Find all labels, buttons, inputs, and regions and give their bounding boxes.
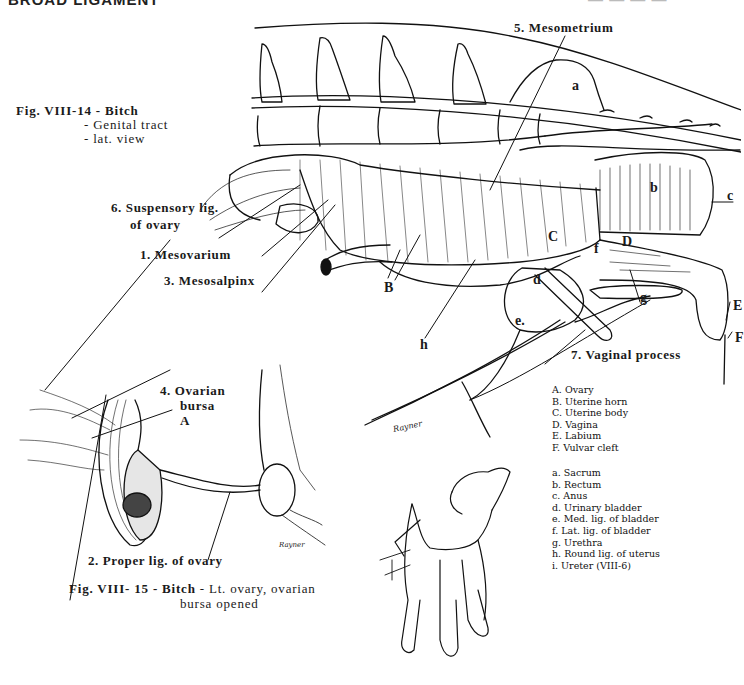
legend-item-g: g. Urethra [552, 537, 660, 549]
label-ovarian-bursa-1: 4. Ovarian [160, 383, 225, 399]
figure-14-subtitle-2: - lat. view [84, 131, 145, 146]
letter-d-bladder: d [533, 272, 541, 288]
legend-item-C: C. Uterine body [552, 407, 628, 419]
legend-item-h: h. Round lig. of uterus [552, 548, 660, 560]
leader-lines-fig14 [219, 36, 733, 364]
rectum-drawing [520, 146, 740, 235]
label-suspensory-lig-2: of ovary [130, 217, 181, 233]
figure-14-title: Fig. VIII-14 - Bitch [16, 103, 139, 118]
legend-lowercase-letters: a. Sacrum b. Rectum c. Anus d. Urinary b… [552, 467, 660, 571]
label-proper-lig-ovary: 2. Proper lig. of ovary [88, 553, 223, 569]
label-mesometrium: 5. Mesometrium [514, 20, 613, 36]
label-suspensory-lig-1: 6. Suspensory lig. [111, 200, 219, 216]
label-mesosalpinx: 3. Mesosalpinx [164, 273, 255, 289]
legend-item-E: E. Labium [552, 430, 628, 442]
legend-item-f: f. Lat. lig. of bladder [552, 525, 660, 537]
letter-h-round-lig: h [420, 337, 428, 353]
letter-f-lat-lig: f [594, 241, 599, 257]
letter-b-rectum: b [650, 180, 658, 196]
label-ovarian-bursa-2: bursa [180, 398, 215, 414]
legend-item-A: A. Ovary [552, 384, 628, 396]
legend-item-c: c. Anus [552, 490, 660, 502]
figure-15-description: - Lt. ovary, ovarian [196, 581, 316, 596]
legend-capital-letters: A. Ovary B. Uterine horn C. Uterine body… [552, 384, 628, 454]
letter-a-sacrum: a [572, 78, 579, 94]
legend-item-i: i. Ureter (VIII-6) [552, 560, 660, 572]
artist-signature-fig15: Rayner [279, 541, 305, 549]
figure-15-title: Fig. VIII- 15 - Bitch [69, 581, 196, 596]
legend-item-a: a. Sacrum [552, 467, 660, 479]
sacrum-vertebrae-drawing [252, 23, 741, 152]
genital-tract-drawing [200, 155, 728, 437]
letter-B-uterine-horn: B [384, 280, 393, 296]
legend-item-b: b. Rectum [552, 479, 660, 491]
cartoon-dog-drawing [380, 468, 510, 656]
label-mesovarium: 1. Mesovarium [140, 247, 231, 263]
letter-F-vulvar-cleft: F [735, 330, 744, 346]
label-A-ovary: A [180, 413, 190, 429]
leader-lines-fig15 [45, 240, 230, 600]
letter-E-labium: E [733, 298, 742, 314]
legend-item-d: d. Urinary bladder [552, 502, 660, 514]
figure-14-caption: Fig. VIII-14 - Bitch [16, 103, 139, 118]
letter-e-med-lig: e. [515, 313, 525, 329]
letter-D-vagina: D [622, 234, 632, 250]
label-vaginal-process: 7. Vaginal process [571, 347, 681, 363]
legend-item-e: e. Med. lig. of bladder [552, 513, 660, 525]
legend-item-B: B. Uterine horn [552, 396, 628, 408]
letter-c-anus: c [727, 188, 733, 204]
figure-15-caption: Fig. VIII- 15 - Bitch - Lt. ovary, ovari… [69, 581, 316, 596]
legend-item-D: D. Vagina [552, 419, 628, 431]
figure-15-caption-line2: bursa opened [180, 596, 259, 611]
legend-item-F: F. Vulvar cleft [552, 442, 628, 454]
letter-g-urethra: g [640, 290, 647, 306]
figure-14-subtitle-1: - Genital tract [84, 117, 168, 132]
letter-C-uterine-body: C [548, 229, 558, 245]
